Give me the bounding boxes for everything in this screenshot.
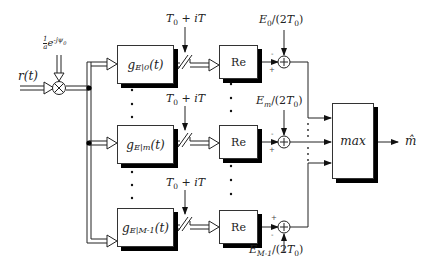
summing-junction-m bbox=[278, 136, 290, 148]
summing-junction-0 bbox=[278, 56, 290, 68]
sign-left-0: + bbox=[269, 66, 275, 74]
sampling-time-label-m: T0 + iT bbox=[166, 93, 205, 104]
matched-filter-m: gE|m(t) bbox=[117, 125, 174, 164]
summing-junction-M-1 bbox=[278, 221, 290, 233]
sign-left-m: + bbox=[269, 146, 275, 154]
sampler-switch-M-1 bbox=[173, 190, 219, 233]
mixer-icon bbox=[53, 82, 66, 95]
sampler-switch-0 bbox=[173, 27, 219, 71]
matched-filter-receiver-diagram: r(t) 1 a e-jψ0 gE|0(t) gE|m(t) gE|M-1(t)… bbox=[0, 0, 427, 265]
phase-double-arrow bbox=[54, 55, 64, 81]
real-part-block-M-1: Re bbox=[219, 210, 258, 244]
phase-correction-label: 1 a e-jψ0 bbox=[43, 36, 66, 51]
energy-bias-label-0: E0/(2T0) bbox=[259, 14, 303, 25]
output-estimate-label: m̂ bbox=[405, 135, 416, 147]
sign-top-M-1: + bbox=[271, 214, 277, 222]
input-double-arrow bbox=[20, 82, 54, 94]
matched-filter-0: gE|0(t) bbox=[117, 45, 174, 84]
energy-bias-label-m: Em/(2T0) bbox=[256, 95, 303, 106]
distribution-bus bbox=[86, 62, 91, 243]
real-part-block-m: Re bbox=[219, 125, 258, 159]
sign-top-m: - bbox=[271, 130, 274, 138]
matched-filter-M-1: gE|M-1(t) bbox=[117, 208, 174, 247]
sampling-time-label-M-1: T0 + iT bbox=[166, 177, 205, 188]
sampler-switch-m bbox=[173, 106, 219, 149]
max-decision-block: max bbox=[332, 103, 374, 179]
sign-bottom-M-1: - bbox=[271, 231, 274, 239]
input-signal-label: r(t) bbox=[18, 70, 38, 82]
sampling-time-label-0: T0 + iT bbox=[166, 13, 205, 24]
real-part-block-0: Re bbox=[219, 45, 258, 79]
sign-top-0: - bbox=[271, 50, 274, 58]
energy-bias-label-M-1: EM-1/(2T0) bbox=[249, 244, 303, 255]
